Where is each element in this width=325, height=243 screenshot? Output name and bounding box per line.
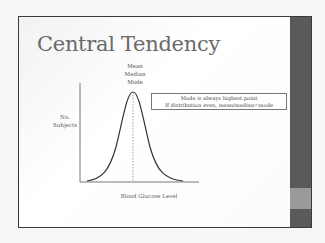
sidebar-accent (290, 188, 311, 209)
bell-curve (87, 92, 183, 181)
sidebar-decoration (290, 17, 311, 227)
slide: Central Tendency Mean Median Mode Mode i… (18, 16, 312, 228)
bell-curve-chart (19, 17, 312, 228)
